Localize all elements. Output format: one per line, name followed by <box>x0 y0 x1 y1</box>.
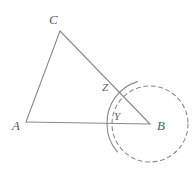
geometry-canvas <box>0 0 196 173</box>
vertex-label-c: C <box>49 13 58 26</box>
vertex-label-b: B <box>157 119 165 132</box>
segment-AC <box>26 31 60 122</box>
angle-arc-at-B <box>107 82 137 124</box>
segment-CB <box>60 31 150 124</box>
point-label-z: Z <box>102 82 108 93</box>
point-label-y: Y <box>114 111 120 122</box>
segment-AB <box>26 122 150 124</box>
geometry-figure: A B C Z Y <box>0 0 196 173</box>
vertex-label-a: A <box>12 119 20 132</box>
